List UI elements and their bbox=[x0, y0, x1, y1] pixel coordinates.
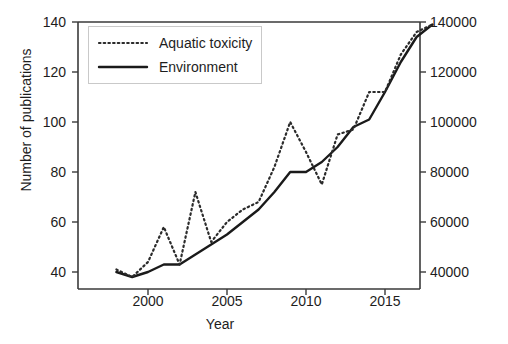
x-axis-ticks bbox=[148, 289, 385, 295]
legend-entry-environment: Environment bbox=[97, 55, 238, 79]
legend-label-aquatic-toxicity: Aquatic toxicity bbox=[159, 35, 252, 51]
chart-legend: Aquatic toxicity Environment bbox=[88, 26, 262, 84]
legend-label-environment: Environment bbox=[159, 59, 238, 75]
legend-entry-aquatic-toxicity: Aquatic toxicity bbox=[97, 31, 252, 55]
legend-swatch-solid-icon bbox=[97, 61, 149, 73]
publications-line-chart: Number of publications Year 140 120 100 … bbox=[0, 0, 508, 344]
y-axis-ticks-right bbox=[420, 22, 426, 272]
legend-swatch-dotted-icon bbox=[97, 37, 149, 49]
y-axis-ticks-left bbox=[72, 22, 78, 272]
